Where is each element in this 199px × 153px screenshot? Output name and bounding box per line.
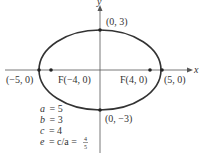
left-vertex-dot <box>37 68 41 72</box>
fraction-denominator: 5 <box>84 144 87 150</box>
param-c: c = 4 <box>40 125 62 136</box>
x-axis-label: x <box>193 64 199 75</box>
ellipse-diagram: x y (0, 3) (0, −3) (−5, 0) (5, 0) F(−4, … <box>0 0 199 153</box>
y-axis: y <box>96 0 103 153</box>
bottom-vertex-dot <box>98 108 102 112</box>
param-b: b = 3 <box>40 114 63 125</box>
parameter-list: a = 5 b = 3 c = 4 e = c/a = 4 5 <box>40 103 88 150</box>
top-vertex-label: (0, 3) <box>106 16 128 28</box>
param-e: e = c/a = <box>40 136 77 147</box>
x-axis-arrow-icon <box>187 68 193 73</box>
right-vertex-label: (5, 0) <box>164 74 186 86</box>
right-focus-dot <box>148 68 152 72</box>
right-vertex-dot <box>160 68 164 72</box>
bottom-vertex-label: (0, −3) <box>105 113 132 125</box>
left-vertex-label: (−5, 0) <box>6 74 33 86</box>
param-a: a = 5 <box>40 103 63 114</box>
left-focus-label: F(−4, 0) <box>58 74 91 86</box>
top-vertex-dot <box>98 28 102 32</box>
right-focus-label: F(4, 0) <box>120 74 147 86</box>
y-axis-label: y <box>96 0 102 7</box>
left-focus-dot <box>49 68 53 72</box>
fraction-numerator: 4 <box>84 136 87 142</box>
